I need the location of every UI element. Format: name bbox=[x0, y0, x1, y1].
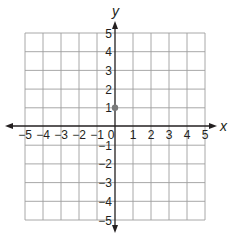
y-axis-up-arrow-icon bbox=[112, 21, 118, 29]
y-tick-label: 5 bbox=[105, 27, 112, 41]
x-tick-label: −3 bbox=[54, 128, 68, 142]
y-tick-label: 4 bbox=[105, 45, 112, 59]
x-tick-labels: −5−4−3−2−1012345 bbox=[18, 128, 209, 142]
y-tick-labels: 54321−1−2−3−4−5 bbox=[98, 27, 112, 228]
data-point bbox=[112, 105, 118, 111]
x-tick-label: 1 bbox=[130, 128, 137, 142]
x-axis-left-arrow-icon bbox=[5, 123, 13, 129]
y-tick-label: −5 bbox=[98, 214, 112, 228]
y-tick-label: −3 bbox=[98, 176, 112, 190]
x-tick-label: 5 bbox=[202, 128, 209, 142]
y-tick-label: 2 bbox=[105, 83, 112, 97]
x-axis-right-arrow-icon bbox=[209, 123, 217, 129]
x-tick-label: 2 bbox=[148, 128, 155, 142]
y-axis-label: y bbox=[111, 3, 120, 19]
data-points bbox=[112, 105, 118, 111]
x-tick-label: −5 bbox=[18, 128, 32, 142]
x-tick-label: 3 bbox=[166, 128, 173, 142]
y-tick-label: 3 bbox=[105, 64, 112, 78]
coordinate-plane: x y −5−4−3−2−1012345 54321−1−2−3−4−5 bbox=[0, 0, 238, 243]
x-axis-label: x bbox=[219, 118, 228, 134]
y-tick-label: −1 bbox=[98, 139, 112, 153]
x-tick-label: 4 bbox=[184, 128, 191, 142]
chart-svg: x y −5−4−3−2−1012345 54321−1−2−3−4−5 bbox=[0, 0, 238, 243]
x-tick-label: −4 bbox=[36, 128, 50, 142]
x-tick-label: −2 bbox=[72, 128, 86, 142]
y-tick-label: −4 bbox=[98, 195, 112, 209]
y-axis-down-arrow-icon bbox=[112, 225, 118, 233]
y-tick-label: −2 bbox=[98, 157, 112, 171]
y-tick-label: 1 bbox=[105, 101, 112, 115]
